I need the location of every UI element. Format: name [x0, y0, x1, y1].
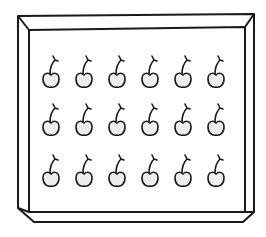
tray: [18, 14, 254, 222]
cherry-icon: [175, 155, 191, 186]
cherry-icon: [43, 104, 59, 135]
cherry-icon: [76, 56, 92, 87]
cherry-icon: [76, 104, 92, 135]
cherry-icon: [175, 56, 191, 87]
cherry-grid: [43, 56, 224, 186]
cherry-icon: [43, 56, 59, 87]
cherry-icon: [76, 155, 92, 186]
cherry-icon: [208, 155, 224, 186]
tray-bevel-top-right: [245, 14, 254, 27]
cherry-tray-illustration: [0, 0, 266, 237]
cherry-icon: [43, 155, 59, 186]
cherry-icon: [142, 56, 158, 87]
cherry-icon: [142, 155, 158, 186]
cherry-icon: [208, 104, 224, 135]
cherry-icon: [208, 56, 224, 87]
cherry-icon: [175, 104, 191, 135]
tray-bevel-top-left: [18, 16, 29, 30]
tray-outer-edge: [18, 14, 254, 222]
cherry-icon: [109, 104, 125, 135]
cherry-icon: [109, 155, 125, 186]
cherry-icon: [109, 56, 125, 87]
cherry-icon: [142, 104, 158, 135]
